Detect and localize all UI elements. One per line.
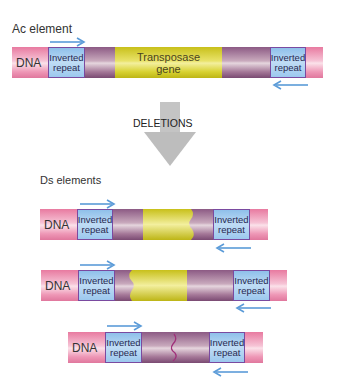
dna-label: DNA bbox=[45, 270, 70, 301]
inverted-repeat-left: Inverted repeat bbox=[77, 209, 113, 240]
inverted-repeat-left: Inverted repeat bbox=[78, 270, 115, 301]
gene-label-line2: gene bbox=[156, 63, 180, 75]
gene-label-line1: Transposase bbox=[137, 51, 200, 63]
repeat-label: Inverted repeat bbox=[271, 53, 305, 73]
repeat-label: Inverted repeat bbox=[214, 215, 249, 235]
reverse-arrow-icon bbox=[215, 243, 251, 253]
dna-label: DNA bbox=[16, 47, 41, 78]
deletion-arrow-icon bbox=[144, 102, 196, 172]
ds-element-1: DNA Inverted repeat Inverted repeat bbox=[40, 209, 268, 240]
transposase-gene: Transposasegene bbox=[115, 47, 222, 78]
inverted-repeat-right: Inverted repeat bbox=[213, 209, 250, 240]
repeat-label: Inverted repeat bbox=[106, 338, 141, 358]
inverted-repeat-left: Inverted repeat bbox=[105, 332, 142, 363]
forward-arrow-icon bbox=[107, 321, 143, 331]
inverted-repeat-left: Inverted repeat bbox=[48, 47, 85, 78]
reverse-arrow-icon bbox=[212, 367, 248, 377]
ac-element-title: Ac element bbox=[12, 22, 72, 36]
ac-element-dna: DNA Transposasegene Inverted repeat Inve… bbox=[12, 47, 323, 78]
inverted-repeat-right: Inverted repeat bbox=[270, 47, 306, 78]
repeat-label: Inverted repeat bbox=[79, 276, 114, 296]
repeat-label: Inverted repeat bbox=[78, 215, 112, 235]
repeat-label: Inverted repeat bbox=[49, 53, 84, 73]
repeat-label: Inverted repeat bbox=[234, 276, 269, 296]
deletions-label: DELETIONS bbox=[133, 117, 193, 129]
inverted-repeat-right: Inverted repeat bbox=[233, 270, 270, 301]
forward-arrow-icon bbox=[80, 199, 116, 209]
forward-arrow-icon bbox=[50, 37, 86, 47]
deletion-junction-icon bbox=[169, 332, 179, 363]
ds-elements-title: Ds elements bbox=[40, 174, 101, 186]
reverse-arrow-icon bbox=[272, 80, 308, 90]
dna-label: DNA bbox=[72, 332, 97, 363]
dna-label: DNA bbox=[44, 209, 69, 240]
repeat-label: Inverted repeat bbox=[210, 338, 244, 358]
forward-arrow-icon bbox=[80, 260, 116, 270]
reverse-arrow-icon bbox=[235, 303, 271, 313]
truncated-transposase-gene bbox=[143, 209, 197, 240]
truncated-transposase-gene bbox=[127, 270, 187, 301]
inverted-repeat-right: Inverted repeat bbox=[209, 332, 245, 363]
ds-element-2: DNA Inverted repeat Inverted repeat bbox=[41, 270, 287, 301]
ds-element-3: DNA Inverted repeat Inverted repeat bbox=[68, 332, 263, 363]
